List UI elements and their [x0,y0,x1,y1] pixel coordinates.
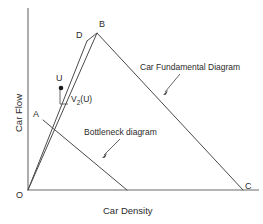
traffic-fundamental-diagram-plot [0,0,263,224]
figure-container: O A B C D U V2(U) Car Fundamental Diagra… [0,0,263,224]
point-label-b: B [99,20,105,29]
point-label-c: C [245,182,252,191]
fundamental-annotation-leader [165,74,180,92]
bottleneck-annotation-leader [104,139,120,155]
point-label-u: U [56,74,63,83]
speed-annotation-suffix: (U) [80,94,92,104]
annotation-bottleneck-diagram: Bottleneck diagram [84,128,157,137]
bottleneck-annotation-arrowhead [102,153,107,158]
car-fundamental-diagram-curve [28,33,243,190]
x-axis-label: Car Density [103,206,153,216]
point-label-d: D [76,31,83,40]
y-axis-label: Car Flow [14,94,24,132]
u-point-marker [59,86,64,91]
annotation-car-fundamental-diagram: Car Fundamental Diagram [140,63,240,72]
point-label-o: O [16,191,23,200]
point-label-a: A [33,110,39,119]
speed-annotation-v2u: V2(U) [71,95,92,106]
